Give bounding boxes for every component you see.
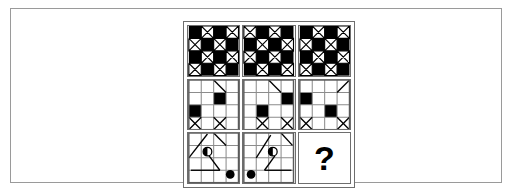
checkerboard-triangles-icon (243, 26, 294, 76)
figure-canvas: ? (0, 0, 515, 192)
question-mark-label: ? (314, 141, 335, 175)
matrix-cell-r3c3-question[interactable]: ? (298, 132, 351, 184)
outer-figure-frame: ? (10, 8, 502, 183)
matrix-cell-r2c1[interactable] (187, 79, 240, 131)
matrix-cell-r1c2[interactable] (242, 25, 295, 77)
grid-squares-diagonals-icon (243, 80, 294, 130)
matrix-cell-r1c1[interactable] (187, 25, 240, 77)
matrix-panel: ? (183, 21, 355, 188)
half-circle-dot-diagonals-icon (188, 133, 239, 183)
matrix-cell-r2c2[interactable] (242, 79, 295, 131)
grid-squares-diagonals-icon (188, 80, 239, 130)
grid-squares-diagonals-icon (299, 80, 350, 130)
matrix-cell-r3c2[interactable] (242, 132, 295, 184)
filled-dot-shape (247, 170, 256, 179)
matrix-cell-r2c3[interactable] (298, 79, 351, 131)
checkerboard-triangles-icon (299, 26, 350, 76)
checkerboard-triangles-icon (188, 26, 239, 76)
matrix-cell-r3c1[interactable] (187, 132, 240, 184)
half-circle-dot-diagonals-icon (243, 133, 294, 183)
matrix-cell-r1c3[interactable] (298, 25, 351, 77)
filled-dot-shape (226, 170, 235, 179)
matrix-grid: ? (187, 25, 351, 184)
